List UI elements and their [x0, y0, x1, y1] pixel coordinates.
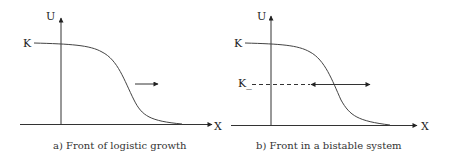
- caption-b: b) Front in a bistable system: [256, 140, 402, 151]
- y-axis-label-a: U: [46, 11, 55, 22]
- level-label-k-b: K: [234, 38, 242, 49]
- front-curve-a: [34, 43, 182, 124]
- x-axis-label-b: X: [421, 121, 429, 132]
- caption-a: a) Front of logistic growth: [53, 140, 187, 151]
- panel-a: [20, 18, 212, 125]
- diagram-canvas: [0, 0, 452, 162]
- level-label-k-minus-b: K_: [238, 78, 252, 89]
- panel-b: [231, 16, 417, 126]
- level-label-k-a: K: [23, 38, 31, 49]
- x-axis-label-a: X: [214, 121, 222, 132]
- y-axis-label-b: U: [257, 11, 266, 22]
